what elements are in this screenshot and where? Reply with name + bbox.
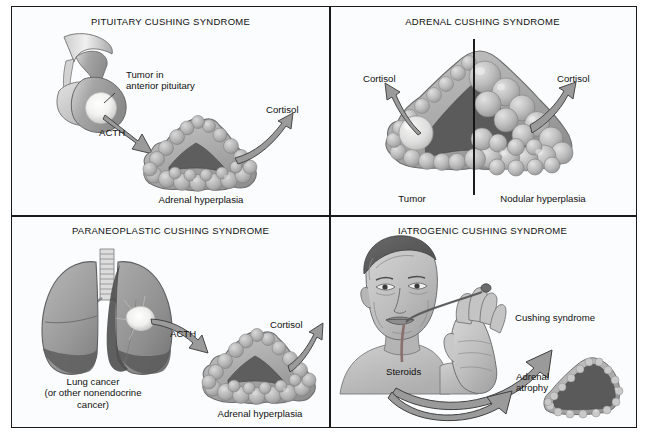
label-adrenal-atrophy: Adrenal atrophy <box>516 371 549 394</box>
label-atrophy-line1: Adrenal <box>516 371 549 382</box>
panel-adrenal-cushing-syndrome: ADRENAL CUSHING SYNDROME <box>330 7 635 215</box>
adrenal-panel-artwork <box>330 7 635 215</box>
label-tumor-line1: Tumor in <box>126 69 164 80</box>
adrenal-hyperplasia-paraneoplastic <box>202 329 316 405</box>
label-tumor-adrenal: Tumor <box>379 193 445 204</box>
label-adrenal-hyperplasia-paraneoplastic: Adrenal hyperplasia <box>200 408 320 419</box>
label-tumor-anterior-pituitary: Tumor in anterior pituitary <box>126 69 195 92</box>
label-lung-cancer: Lung cancer (or other nonendocrine cance… <box>30 376 156 410</box>
label-adrenal-hyperplasia-pituitary: Adrenal hyperplasia <box>141 194 261 205</box>
label-lung-line1: Lung cancer <box>67 376 120 387</box>
label-cushing-syndrome: Cushing syndrome <box>515 312 595 323</box>
label-lung-line3: cancer) <box>77 399 109 410</box>
panel-paraneoplastic-cushing-syndrome: PARANEOPLASTIC CUSHING SYNDROME <box>12 216 329 426</box>
figure-frame: PITUITARY CUSHING SYNDROME <box>11 6 637 428</box>
thumb-shape <box>444 333 454 362</box>
label-cortisol-paraneoplastic: Cortisol <box>270 319 303 330</box>
panel-pituitary-cushing-syndrome: PITUITARY CUSHING SYNDROME <box>12 7 329 215</box>
atrophic-adrenal-shape <box>544 358 623 418</box>
label-acth-pituitary: ACTH <box>99 127 125 138</box>
cortisol-arrow <box>235 113 293 164</box>
label-acth-paraneoplastic: ACTH <box>170 328 196 339</box>
pituitary-tumor-shape <box>86 93 117 124</box>
label-cortisol-pituitary: Cortisol <box>266 104 299 115</box>
label-cortisol-left: Cortisol <box>363 73 396 84</box>
panel-iatrogenic-cushing-syndrome: IATROGENIC CUSHING SYNDROME <box>330 216 635 426</box>
steroid-pill-shape <box>481 284 491 292</box>
adrenal-hyperplasia-shape <box>143 116 257 192</box>
label-nodular-hyperplasia: Nodular hyperplasia <box>480 193 606 204</box>
label-tumor-line2: anterior pituitary <box>126 80 195 91</box>
label-steroids: Steroids <box>386 366 421 377</box>
cushing-syndrome-figure: PITUITARY CUSHING SYNDROME <box>0 0 648 436</box>
label-lung-line2: (or other nonendocrine <box>44 387 141 398</box>
label-atrophy-line2: atrophy <box>516 382 548 393</box>
label-cortisol-right: Cortisol <box>557 73 590 84</box>
